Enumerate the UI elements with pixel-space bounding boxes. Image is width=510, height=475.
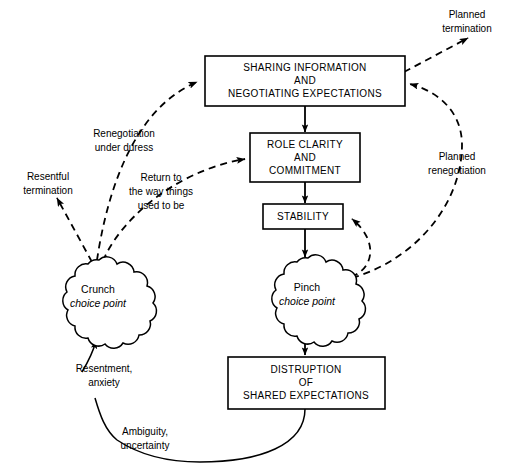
sharing-information-line-1: SHARING INFORMATION [243,62,366,73]
role-clarity-line-1: ROLE CLARITY [267,139,343,150]
node-pinch-choice-point[interactable]: Pinch choice point [272,255,366,346]
planned-termination-line-2: termination [442,23,491,34]
ambiguity-uncertainty-line-2: uncertainty [121,440,170,451]
crunch-subtitle: choice point [70,297,127,309]
disruption-line-2: OF [299,377,314,388]
return-to-way-line-1: Return to [140,172,182,183]
label-resentful-termination: Resentful termination [23,171,72,196]
label-planned-renegotiation: Planned renegotiation [428,151,486,176]
planned-termination-line-1: Planned [449,9,486,20]
pinch-model-diagram: SHARING INFORMATION AND NEGOTIATING EXPE… [0,0,510,475]
node-sharing-information[interactable]: SHARING INFORMATION AND NEGOTIATING EXPE… [205,56,405,106]
resentment-anxiety-line-1: Resentment, [76,363,133,374]
disruption-line-3: SHARED EXPECTATIONS [243,390,369,401]
disruption-line-1: DISTRUPTION [270,364,341,375]
edge-ambiguity-to-resentment [95,398,117,440]
edge-sharing-to-planned-termination [404,38,468,72]
resentment-anxiety-line-2: anxiety [88,377,120,388]
node-crunch-choice-point[interactable]: Crunch choice point [63,257,157,348]
sharing-information-line-3: NEGOTIATING EXPECTATIONS [228,88,382,99]
edge-pinch-to-stability [351,219,370,277]
role-clarity-line-2: AND [294,152,316,163]
resentful-termination-line-1: Resentful [27,171,69,182]
planned-termination-edge [404,38,468,72]
edge-pinch-to-sharing-planned [352,84,462,278]
label-renegotiation-under-duress: Renegotiation under duress [93,128,155,153]
node-stability[interactable]: STABILITY [263,204,343,229]
sharing-information-line-2: AND [294,75,316,86]
pinch-subtitle: choice point [279,295,336,307]
crunch-title: Crunch [81,283,115,295]
resentful-termination-line-2: termination [23,185,72,196]
role-clarity-line-3: COMMITMENT [269,165,341,176]
diagram-canvas: SHARING INFORMATION AND NEGOTIATING EXPE… [0,0,510,475]
ambiguity-uncertainty-line-1: Ambiguity, [122,426,168,437]
stability-label: STABILITY [277,211,329,222]
renegotiation-under-duress-line-1: Renegotiation [93,128,155,139]
planned-renegotiation-line-2: renegotiation [428,165,486,176]
planned-renegotiation-line-1: Planned [439,151,476,162]
label-return-to-way-things: Return to the way things used to be [129,172,193,211]
pinch-title: Pinch [294,281,320,293]
edge-crunch-to-resentful-termination [57,198,92,262]
label-planned-termination: Planned termination [442,9,491,34]
pinch-dashed-edges [351,84,462,278]
return-to-way-line-2: the way things [129,186,193,197]
renegotiation-under-duress-line-2: under duress [95,142,153,153]
label-resentment-anxiety: Resentment, anxiety [76,363,133,388]
label-ambiguity-uncertainty: Ambiguity, uncertainty [121,426,170,451]
node-role-clarity[interactable]: ROLE CLARITY AND COMMITMENT [250,133,360,182]
node-disruption[interactable]: DISTRUPTION OF SHARED EXPECTATIONS [228,357,385,409]
return-to-way-line-3: used to be [138,200,185,211]
